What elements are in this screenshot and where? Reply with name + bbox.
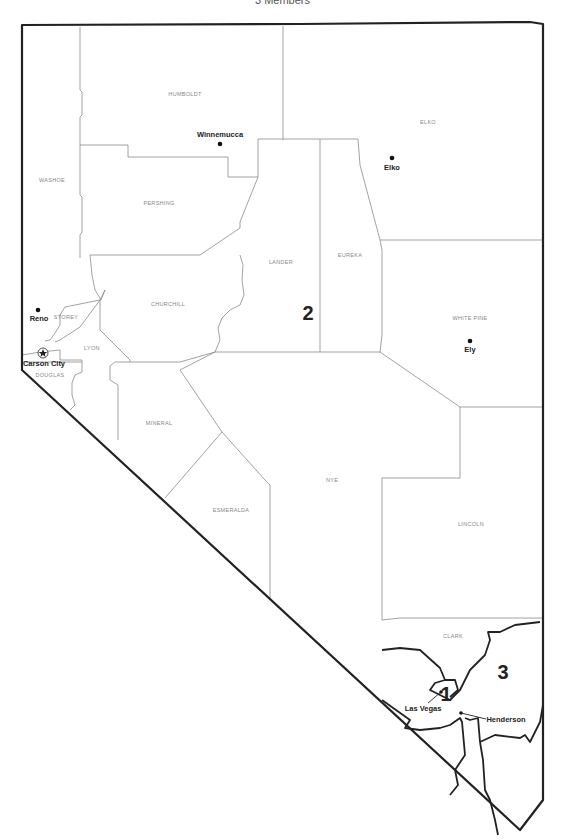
county-label: WHITE PINE [452, 315, 487, 321]
county-label: LYON [84, 345, 100, 351]
city-dot-icon [218, 142, 223, 147]
city-label: Reno [30, 314, 49, 323]
county-label: HUMBOLDT [168, 91, 202, 97]
county-label: LINCOLN [458, 521, 484, 527]
county-label: CLARK [443, 633, 463, 639]
city-label: Las Vegas [405, 704, 442, 713]
county-labels: HUMBOLDT ELKO WASHOE PERSHING LANDER EUR… [36, 91, 488, 639]
nevada-map: HUMBOLDT ELKO WASHOE PERSHING LANDER EUR… [0, 0, 565, 840]
city-dot-icon [468, 339, 473, 344]
county-label: ESMERALDA [213, 507, 250, 513]
state-border [22, 22, 543, 830]
city-label: Carson City [23, 359, 66, 368]
county-boundaries [22, 26, 543, 620]
city-label: Ely [464, 345, 476, 354]
district-number: 1 [440, 683, 451, 705]
city-label: Henderson [486, 715, 526, 724]
district-number: 3 [497, 661, 508, 683]
capital-star-icon [38, 348, 48, 358]
county-label: EUREKA [338, 252, 362, 258]
county-label: DOUGLAS [36, 372, 65, 378]
city-dot-icon [36, 308, 41, 313]
county-label: WASHOE [39, 177, 65, 183]
county-label: NYE [326, 477, 338, 483]
city-label: Winnemucca [197, 130, 244, 139]
county-label: STOREY [54, 314, 78, 320]
district-labels: 1 2 3 [302, 302, 508, 705]
county-label: LANDER [269, 259, 293, 265]
county-label: MINERAL [146, 420, 173, 426]
county-label: ELKO [420, 119, 436, 125]
city-label: Elko [384, 163, 400, 172]
city-dot-icon [390, 156, 395, 161]
district-number: 2 [302, 302, 313, 324]
district-boundaries [382, 622, 543, 835]
county-label: CHURCHILL [151, 301, 185, 307]
county-label: PERSHING [143, 200, 174, 206]
